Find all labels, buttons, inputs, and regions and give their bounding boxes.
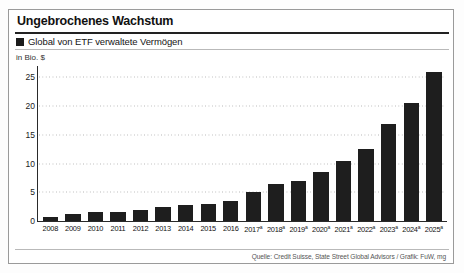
bar-slot (197, 66, 220, 221)
legend-swatch-icon (16, 38, 24, 46)
plot-area: 0510152025 20082009201020112012201320142… (15, 66, 449, 232)
bar-slot (107, 66, 130, 221)
bar[interactable] (110, 212, 125, 221)
bar-series (39, 66, 445, 221)
x-axis-tick-label: 2017a (242, 224, 265, 234)
y-axis-unit-label: in Bio. $ (16, 53, 45, 62)
x-axis-tick-label: 2024a (400, 224, 423, 234)
chart-page: Ungebrochenes Wachstum Global von ETF ve… (0, 0, 464, 273)
x-axis-tick-label: 2021a (332, 224, 355, 234)
bar-slot (174, 66, 197, 221)
bar-slot (220, 66, 243, 221)
legend: Global von ETF verwaltete Vermögen (16, 35, 182, 48)
x-axis-labels: 2008200920102011201220132014201520162017… (39, 224, 445, 234)
bar-slot (242, 66, 265, 221)
page-title: Ungebrochenes Wachstum (17, 14, 173, 28)
bar-slot (423, 66, 446, 221)
y-axis-tick-label: 15 (15, 130, 35, 140)
x-axis-tick-label: 2020a (310, 224, 333, 234)
title-divider (15, 32, 449, 34)
x-axis-tick-label: 2011 (107, 224, 130, 234)
bar[interactable] (201, 204, 216, 221)
bar[interactable] (291, 181, 306, 221)
bar[interactable] (43, 217, 58, 221)
bar-slot (152, 66, 175, 221)
x-axis-tick-label: 2008 (39, 224, 62, 234)
bar[interactable] (88, 212, 103, 221)
bar-slot (377, 66, 400, 221)
legend-label: Global von ETF verwaltete Vermögen (28, 36, 182, 47)
bar[interactable] (223, 201, 238, 221)
bar[interactable] (178, 205, 193, 221)
x-axis-tick-label: 2013 (152, 224, 175, 234)
y-axis-tick-label: 20 (15, 101, 35, 111)
y-axis-tick-label: 25 (15, 72, 35, 82)
y-axis-tick-label: 5 (15, 187, 35, 197)
bar-slot (400, 66, 423, 221)
bar-slot (129, 66, 152, 221)
bar[interactable] (404, 103, 419, 221)
legend-divider (15, 49, 449, 50)
bar-slot (287, 66, 310, 221)
x-axis-tick-label: 2012 (129, 224, 152, 234)
x-axis-tick-label: 2018a (265, 224, 288, 234)
bar[interactable] (65, 214, 80, 221)
bar-slot (62, 66, 85, 221)
bar[interactable] (133, 210, 148, 221)
bar-slot (310, 66, 333, 221)
bar[interactable] (426, 72, 441, 221)
bar[interactable] (336, 161, 351, 221)
x-axis-tick-label: 2015 (197, 224, 220, 234)
x-axis-tick-label: 2009 (62, 224, 85, 234)
bar[interactable] (268, 184, 283, 221)
x-axis-tick-label: 2010 (84, 224, 107, 234)
x-axis-tick-label: 2014 (174, 224, 197, 234)
bar-slot (84, 66, 107, 221)
source-note: Quelle: Credit Suisse, State Street Glob… (252, 253, 446, 260)
x-axis-tick-label: 2023a (377, 224, 400, 234)
y-axis-tick-label: 0 (15, 216, 35, 226)
bar-slot (355, 66, 378, 221)
x-axis-line (37, 221, 447, 222)
x-axis-tick-label: 2016 (220, 224, 243, 234)
bar-slot (39, 66, 62, 221)
x-axis-tick-label: 2022a (355, 224, 378, 234)
x-axis-tick-label: 2019a (287, 224, 310, 234)
bar[interactable] (381, 124, 396, 221)
x-axis-tick-label: 2025a (423, 224, 446, 234)
chart-frame: Ungebrochenes Wachstum Global von ETF ve… (8, 9, 454, 264)
bar-slot (265, 66, 288, 221)
bar[interactable] (313, 172, 328, 221)
y-axis-tick-label: 10 (15, 159, 35, 169)
footer-divider (15, 249, 449, 250)
bar[interactable] (358, 149, 373, 221)
bar[interactable] (155, 207, 170, 221)
bar[interactable] (246, 192, 261, 221)
bar-slot (332, 66, 355, 221)
